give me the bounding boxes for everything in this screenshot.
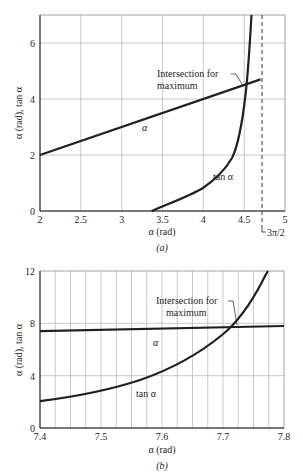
chart-panel-b: α tan α Intersection for maximum 0 4 8 1…: [13, 266, 290, 472]
label-tan-b: tan α: [136, 388, 157, 399]
svg-text:4: 4: [201, 214, 206, 225]
svg-text:8: 8: [30, 318, 35, 329]
x-ticks-a: 2 2.5 3 3.5 4 4.5 5: [38, 214, 288, 225]
svg-text:3.5: 3.5: [156, 214, 169, 225]
y-ticks-b: 0 4 8 12: [25, 266, 35, 434]
asymptote-label: 3π/2: [267, 227, 285, 238]
svg-text:7.7: 7.7: [217, 431, 230, 442]
svg-text:4.5: 4.5: [238, 214, 251, 225]
chart-panel-a: 3π/2 α tan α Intersection for maximum 0 …: [13, 15, 288, 254]
svg-text:2.5: 2.5: [75, 214, 88, 225]
svg-text:5: 5: [283, 214, 288, 225]
svg-text:7.5: 7.5: [95, 431, 108, 442]
y-axis-label-b: α (rad), tan α: [13, 323, 25, 376]
x-axis-label-b: α (rad): [148, 444, 175, 456]
annotation-line2-b: maximum: [166, 307, 207, 318]
svg-text:4: 4: [30, 371, 35, 382]
svg-text:7.6: 7.6: [156, 431, 169, 442]
annotation-line2-a: maximum: [157, 80, 198, 91]
asymptote-leader: [262, 228, 266, 232]
annotation-leader-a: [231, 74, 243, 86]
svg-text:7.8: 7.8: [278, 431, 291, 442]
svg-text:2: 2: [30, 150, 35, 161]
y-axis-label-a: α (rad), tan α: [13, 86, 25, 139]
x-ticks-b: 7.4 7.5 7.6 7.7 7.8: [34, 431, 291, 442]
svg-text:6: 6: [30, 38, 35, 49]
caption-a: (a): [156, 242, 168, 254]
svg-text:3: 3: [119, 214, 124, 225]
label-tan-a: tan α: [213, 171, 234, 182]
series-alpha-a: [40, 79, 261, 155]
figure: 3π/2 α tan α Intersection for maximum 0 …: [0, 0, 303, 476]
svg-text:2: 2: [38, 214, 43, 225]
y-ticks-a: 0 2 4 6: [30, 38, 35, 217]
label-alpha-b: α: [153, 337, 159, 348]
label-alpha-a: α: [142, 122, 148, 133]
annotation-line1-a: Intersection for: [157, 68, 219, 79]
caption-b: (b): [156, 460, 168, 472]
svg-text:7.4: 7.4: [34, 431, 47, 442]
svg-text:4: 4: [30, 94, 35, 105]
annotation-line1-b: Intersection for: [156, 295, 218, 306]
svg-text:12: 12: [25, 266, 35, 277]
x-axis-label-a: α (rad): [148, 226, 175, 238]
series-tan-a: [152, 15, 252, 211]
svg-text:0: 0: [30, 206, 35, 217]
